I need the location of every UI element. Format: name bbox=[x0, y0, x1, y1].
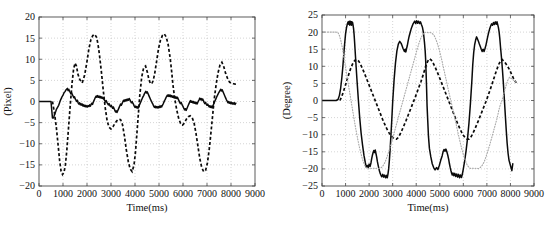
series-group bbox=[39, 34, 237, 175]
x-tick-label: 0 bbox=[320, 188, 325, 199]
y-tick-label: 10 bbox=[308, 61, 318, 72]
x-tick-label: 9000 bbox=[524, 188, 544, 199]
series-solid bbox=[39, 88, 236, 118]
x-tick-label: 9000 bbox=[245, 188, 265, 199]
y-tick-label: 0 bbox=[313, 95, 318, 106]
y-tick-label: −20 bbox=[19, 180, 35, 191]
tick-labels: 0100020003000400050006000700080009000−25… bbox=[302, 9, 544, 199]
tick-labels: 0100020003000400050006000700080009000−20… bbox=[19, 11, 265, 199]
x-tick-label: 7000 bbox=[197, 188, 217, 199]
x-tick-label: 7000 bbox=[477, 188, 497, 199]
y-tick-label: −20 bbox=[302, 163, 318, 174]
y-tick-label: 10 bbox=[25, 54, 35, 65]
y-tick-label: −15 bbox=[302, 146, 318, 157]
y-tick-label: −15 bbox=[19, 159, 35, 170]
right-chart-svg: 0100020003000400050006000700080009000−25… bbox=[277, 0, 554, 226]
x-axis-title: Time(ms) bbox=[126, 202, 168, 214]
figure-root: 0100020003000400050006000700080009000−20… bbox=[0, 0, 554, 226]
y-tick-label: −5 bbox=[307, 112, 318, 123]
y-axis-title: (Pixel) bbox=[2, 87, 14, 116]
y-tick-label: −10 bbox=[302, 129, 318, 140]
x-tick-label: 4000 bbox=[125, 188, 145, 199]
x-tick-label: 0 bbox=[37, 188, 42, 199]
y-tick-label: 20 bbox=[25, 11, 35, 22]
x-tick-label: 1000 bbox=[336, 188, 356, 199]
left-chart-panel: 0100020003000400050006000700080009000−20… bbox=[0, 0, 277, 226]
y-tick-label: 0 bbox=[30, 96, 35, 107]
right-chart-panel: 0100020003000400050006000700080009000−25… bbox=[277, 0, 554, 226]
x-tick-label: 5000 bbox=[430, 188, 450, 199]
x-tick-label: 2000 bbox=[359, 188, 379, 199]
x-tick-label: 8000 bbox=[500, 188, 520, 199]
y-tick-label: 20 bbox=[308, 27, 318, 38]
x-tick-label: 3000 bbox=[383, 188, 403, 199]
x-tick-label: 8000 bbox=[221, 188, 241, 199]
x-tick-label: 1000 bbox=[53, 188, 73, 199]
x-axis-title: Time(ms) bbox=[407, 202, 449, 214]
y-tick-label: 25 bbox=[308, 9, 318, 20]
x-tick-label: 6000 bbox=[173, 188, 193, 199]
x-tick-label: 5000 bbox=[149, 188, 169, 199]
y-tick-label: 5 bbox=[30, 75, 35, 86]
x-tick-label: 6000 bbox=[453, 188, 473, 199]
x-tick-label: 2000 bbox=[77, 188, 97, 199]
y-tick-label: 5 bbox=[313, 78, 318, 89]
y-axis-title: (Degree) bbox=[281, 81, 293, 119]
y-tick-label: 15 bbox=[25, 33, 35, 44]
y-tick-label: 15 bbox=[308, 44, 318, 55]
y-tick-label: −25 bbox=[302, 180, 318, 191]
x-tick-label: 4000 bbox=[406, 188, 426, 199]
y-tick-label: −5 bbox=[24, 117, 35, 128]
left-chart-svg: 0100020003000400050006000700080009000−20… bbox=[0, 0, 277, 226]
x-tick-label: 3000 bbox=[101, 188, 121, 199]
y-tick-label: −10 bbox=[19, 138, 35, 149]
